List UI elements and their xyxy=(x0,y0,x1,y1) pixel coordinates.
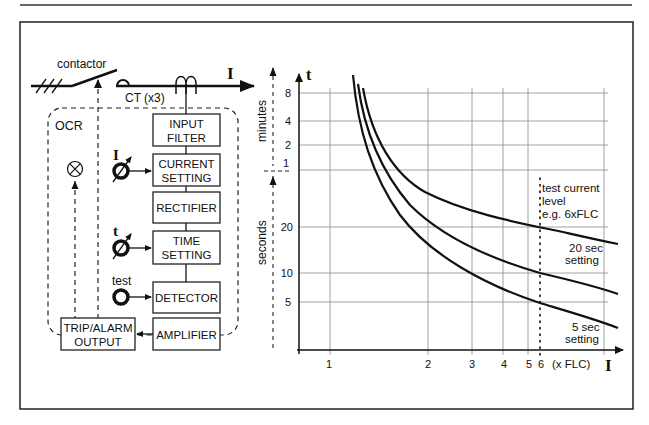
svg-text:SETTING: SETTING xyxy=(162,172,212,184)
x-tick: 6 xyxy=(538,358,544,370)
chart-grid xyxy=(299,88,608,355)
svg-text:e.g. 6xFLC: e.g. 6xFLC xyxy=(542,208,598,220)
y-tick: 5 xyxy=(285,296,291,308)
svg-text:TIME: TIME xyxy=(173,235,201,247)
svg-text:setting: setting xyxy=(565,254,599,266)
y-label-seconds: seconds xyxy=(255,220,269,265)
annotation-5-sec: 5 sec setting xyxy=(565,321,600,345)
block-input-filter: INPUT FILTER xyxy=(153,114,220,146)
block-current-setting: CURRENT SETTING xyxy=(153,154,220,186)
ocr-label: OCR xyxy=(55,119,83,133)
y-tick: 4 xyxy=(285,115,291,127)
svg-text:5 sec: 5 sec xyxy=(572,321,600,333)
test-button-icon: test xyxy=(112,274,151,304)
x-tick: 3 xyxy=(469,358,475,370)
y-axis-symbol: t xyxy=(306,66,312,83)
curve-5-sec-setting xyxy=(353,75,618,328)
svg-text:INPUT: INPUT xyxy=(169,118,204,130)
contactor-label: contactor xyxy=(57,57,106,71)
svg-text:test: test xyxy=(112,274,132,288)
svg-text:SETTING: SETTING xyxy=(162,249,212,261)
circuit-panel: contactor I CT (x3) OCR INPUT FILTER xyxy=(31,57,254,350)
lamp-cross-icon xyxy=(68,162,83,177)
block-detector: DETECTOR xyxy=(153,282,220,313)
x-tick: 1 xyxy=(326,358,332,370)
svg-text:DETECTOR: DETECTOR xyxy=(155,292,218,304)
x-tick: 2 xyxy=(425,358,431,370)
y-tick: 1 xyxy=(283,157,289,169)
ct-label: CT (x3) xyxy=(125,91,165,105)
svg-text:setting: setting xyxy=(565,333,599,345)
annotation-test-current: test current level e.g. 6xFLC xyxy=(542,182,600,220)
curve-upper xyxy=(363,88,618,244)
y-tick: 10 xyxy=(281,267,293,279)
y-tick: 20 xyxy=(281,221,293,233)
x-tick: 5 xyxy=(526,358,532,370)
x-unit-label: (x FLC) xyxy=(552,358,591,370)
svg-text:20 sec: 20 sec xyxy=(569,242,603,254)
block-time-setting: TIME SETTING xyxy=(153,231,220,264)
x-axis-symbol: I xyxy=(605,356,612,375)
svg-text:AMPLIFIER: AMPLIFIER xyxy=(156,329,217,341)
block-trip-alarm-output: TRIP/ALARM OUTPUT xyxy=(61,318,135,350)
time-current-chart: minutes seconds 8 4 2 1 20 10 5 t I 1 2 … xyxy=(255,66,623,375)
y-tick: 2 xyxy=(285,139,291,151)
x-tick: 4 xyxy=(501,358,507,370)
annotation-20-sec: 20 sec setting xyxy=(565,242,603,266)
block-rectifier: RECTIFIER xyxy=(153,192,220,223)
svg-text:TRIP/ALARM: TRIP/ALARM xyxy=(63,322,132,334)
y-tick: 8 xyxy=(285,87,291,99)
svg-text:CURRENT: CURRENT xyxy=(158,158,214,170)
svg-text:test current: test current xyxy=(542,182,600,194)
contactor-switch xyxy=(72,70,117,86)
svg-text:I: I xyxy=(113,147,119,163)
time-setting-knob-icon: t xyxy=(113,223,151,259)
svg-text:level: level xyxy=(542,195,566,207)
ocr-diagram: contactor I CT (x3) OCR INPUT FILTER xyxy=(0,0,649,425)
svg-text:OUTPUT: OUTPUT xyxy=(74,336,121,348)
current-setting-knob-icon: I xyxy=(113,147,151,182)
svg-text:RECTIFIER: RECTIFIER xyxy=(156,202,217,214)
svg-text:t: t xyxy=(113,223,118,239)
y-label-minutes: minutes xyxy=(255,100,269,142)
current-symbol: I xyxy=(227,64,234,83)
svg-text:FILTER: FILTER xyxy=(167,132,206,144)
block-amplifier: AMPLIFIER xyxy=(153,318,220,350)
